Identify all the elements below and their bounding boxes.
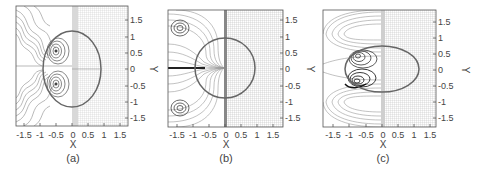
svg-text:-1.5: -1.5 — [438, 113, 454, 123]
svg-text:0.5: 0.5 — [392, 130, 405, 140]
svg-text:1: 1 — [411, 130, 416, 140]
svg-text:-1.5: -1.5 — [325, 130, 341, 140]
y-axis-label-c: Y — [460, 67, 471, 74]
svg-text:0: 0 — [438, 65, 443, 75]
vortex-upper-c — [349, 50, 377, 68]
svg-text:0.5: 0.5 — [438, 49, 451, 59]
svg-text:1.5: 1.5 — [438, 17, 451, 27]
svg-text:-1: -1 — [345, 130, 353, 140]
svg-text:-0.5: -0.5 — [358, 130, 374, 140]
panel-caption-c: (c) — [377, 152, 390, 164]
contour-plot-c: -1.5 -1 -0.5 0 0.5 1 1.5 1.5 1 0.5 0 -0.… — [0, 0, 479, 173]
svg-text:1.5: 1.5 — [424, 130, 437, 140]
svg-text:-0.5: -0.5 — [438, 81, 454, 91]
svg-text:-1: -1 — [438, 97, 446, 107]
x-axis-label-c: X — [380, 139, 387, 150]
svg-text:1: 1 — [438, 33, 443, 43]
y-tick-labels-c: 1.5 1 0.5 0 -0.5 -1 -1.5 — [438, 17, 454, 123]
panel-c: -1.5 -1 -0.5 0 0.5 1 1.5 1.5 1 0.5 0 -0.… — [0, 0, 479, 173]
